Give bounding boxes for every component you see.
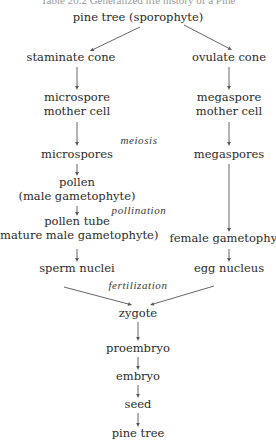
cut-off-caption: Table 20.2 Generalized life history of a… — [41, 0, 236, 6]
node-line: proembryo — [106, 341, 170, 355]
node-pollen-tube: pollen tube(mature male gametophyte) — [0, 214, 158, 242]
node-line: pine tree (sporophyte) — [73, 10, 204, 24]
node-line: mother cell — [196, 104, 263, 118]
arrow-pine-tree-sporophyte-to-staminate-cone — [90, 27, 140, 51]
arrow-megaspores-to-female-gametophyte — [227, 164, 231, 232]
arrowhead-icon — [227, 142, 231, 146]
node-line: megaspore — [197, 90, 262, 104]
node-line: (mature male gametophyte) — [0, 228, 158, 242]
node-line: microspores — [41, 147, 113, 161]
process-label-pollination: pollination — [111, 204, 167, 216]
node-line: pollen — [59, 175, 95, 189]
node-sperm-nuclei: sperm nuclei — [39, 261, 115, 275]
arrow-seed-to-pine-tree — [136, 413, 140, 427]
arrow-megaspore-mother-cell-to-megaspores — [227, 122, 231, 146]
node-line: mother cell — [44, 104, 111, 118]
node-line: embryo — [116, 369, 160, 383]
node-line: megaspores — [194, 147, 264, 161]
node-line: seed — [125, 397, 153, 411]
arrowhead-icon — [75, 142, 79, 146]
node-line: (male gametophyte) — [18, 189, 135, 203]
node-megaspore-mother-cell: megasporemother cell — [196, 90, 263, 118]
arrow-staminate-cone-to-microspore-mother-cell — [75, 67, 79, 90]
node-line: egg nucleus — [194, 261, 264, 275]
arrow-zygote-to-proembryo — [136, 322, 140, 341]
process-label-fertilization: fertilization — [108, 279, 167, 291]
node-line: pine tree — [112, 426, 165, 440]
node-embryo: embryo — [116, 369, 160, 383]
arrow-microspore-mother-cell-to-microspores — [75, 122, 79, 146]
arrow-line — [184, 25, 228, 48]
node-pollen: pollen(male gametophyte) — [18, 175, 135, 203]
nodes-layer: pine tree (sporophyte)staminate coneovul… — [0, 10, 276, 440]
node-seed: seed — [125, 397, 153, 411]
node-microspore-mother-cell: microsporemother cell — [44, 90, 111, 118]
node-proembryo: proembryo — [106, 341, 170, 355]
arrow-pine-tree-sporophyte-to-ovulate-cone — [184, 25, 232, 50]
node-line: female gametophyte — [169, 231, 276, 245]
node-microspores: microspores — [41, 147, 113, 161]
arrow-ovulate-cone-to-megaspore-mother-cell — [227, 67, 231, 90]
node-line: sperm nuclei — [39, 261, 115, 275]
node-line: ovulate cone — [192, 50, 266, 64]
pine-life-cycle-diagram: Table 20.2 Generalized life history of a… — [0, 0, 276, 444]
process-labels-layer: meiosispollinationfertilization — [108, 134, 167, 291]
node-line: microspore — [44, 90, 110, 104]
node-zygote: zygote — [119, 306, 157, 320]
process-label-meiosis: meiosis — [120, 134, 157, 146]
node-ovulate-cone: ovulate cone — [192, 50, 266, 64]
node-egg-nucleus: egg nucleus — [194, 261, 264, 275]
node-line: staminate cone — [27, 50, 116, 64]
node-line: zygote — [119, 306, 157, 320]
node-staminate-cone: staminate cone — [27, 50, 116, 64]
node-female-gametophyte: female gametophyte — [169, 231, 276, 245]
node-pine-tree: pine tree — [112, 426, 165, 440]
node-pine-tree-sporophyte: pine tree (sporophyte) — [73, 10, 204, 24]
node-megaspores: megaspores — [194, 147, 264, 161]
node-line: pollen tube — [44, 214, 110, 228]
arrow-line — [94, 27, 140, 49]
